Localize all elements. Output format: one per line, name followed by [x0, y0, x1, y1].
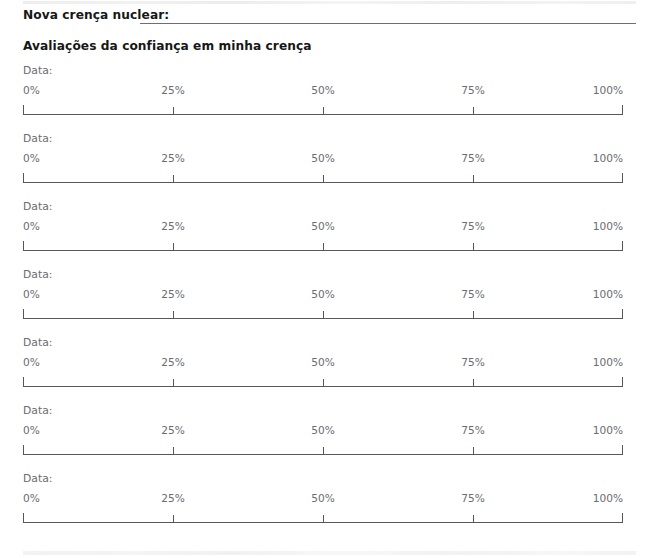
scale-mid-tick: [473, 515, 474, 523]
scale-mid-tick: [173, 447, 174, 455]
scale-tick-label: 75%: [461, 424, 485, 436]
rating-block: Data:0%25%50%75%100%: [23, 132, 636, 194]
scale-tick-label: 50%: [311, 356, 335, 368]
rating-block: Data:0%25%50%75%100%: [23, 472, 636, 534]
scale-tick-labels: 0%25%50%75%100%: [23, 356, 623, 372]
scale-tick-label: 75%: [461, 492, 485, 504]
scale-tick-label: 75%: [461, 288, 485, 300]
scale-mid-tick: [173, 311, 174, 319]
worksheet-page: Nova crença nuclear: Avaliações da confi…: [0, 0, 659, 558]
scale-tick-label: 50%: [311, 492, 335, 504]
scale-end-tick: [23, 173, 24, 183]
rating-block: Data:0%25%50%75%100%: [23, 336, 636, 398]
clipped-text-line-top: [23, 1, 636, 4]
scale-tick-label: 0%: [23, 84, 40, 96]
scale-end-tick: [23, 105, 24, 115]
scale-mid-tick: [473, 175, 474, 183]
scale-ruler: [23, 309, 623, 321]
scale-ruler: [23, 105, 623, 117]
confidence-scale[interactable]: 0%25%50%75%100%: [23, 356, 623, 396]
scale-tick-label: 75%: [461, 356, 485, 368]
scale-ruler: [23, 513, 623, 525]
scale-mid-tick: [173, 175, 174, 183]
rating-block: Data:0%25%50%75%100%: [23, 200, 636, 262]
rating-date-label[interactable]: Data:: [23, 268, 52, 281]
scale-mid-tick: [173, 515, 174, 523]
rating-date-label[interactable]: Data:: [23, 404, 52, 417]
scale-tick-label: 0%: [23, 492, 40, 504]
scale-tick-label: 75%: [461, 152, 485, 164]
scale-tick-label: 100%: [593, 220, 623, 232]
scale-mid-tick: [323, 107, 324, 115]
scale-tick-labels: 0%25%50%75%100%: [23, 152, 623, 168]
scale-tick-labels: 0%25%50%75%100%: [23, 492, 623, 508]
scale-end-tick: [23, 241, 24, 251]
scale-tick-labels: 0%25%50%75%100%: [23, 288, 623, 304]
new-core-belief-field-row: Nova crença nuclear:: [23, 8, 636, 28]
rating-block: Data:0%25%50%75%100%: [23, 64, 636, 126]
scale-mid-tick: [323, 447, 324, 455]
scale-tick-label: 25%: [161, 424, 185, 436]
scale-end-tick: [23, 377, 24, 387]
scale-tick-label: 0%: [23, 356, 40, 368]
scale-tick-label: 25%: [161, 152, 185, 164]
rating-date-label[interactable]: Data:: [23, 64, 52, 77]
scale-tick-label: 0%: [23, 424, 40, 436]
rating-date-label[interactable]: Data:: [23, 472, 52, 485]
scale-tick-label: 100%: [593, 492, 623, 504]
rating-block: Data:0%25%50%75%100%: [23, 404, 636, 466]
scale-mid-tick: [473, 107, 474, 115]
scale-tick-label: 25%: [161, 356, 185, 368]
scale-tick-labels: 0%25%50%75%100%: [23, 220, 623, 236]
scale-mid-tick: [473, 379, 474, 387]
rating-date-label[interactable]: Data:: [23, 336, 52, 349]
scale-end-tick: [622, 241, 623, 251]
scale-tick-label: 100%: [593, 84, 623, 96]
scale-mid-tick: [323, 311, 324, 319]
scale-end-tick: [622, 309, 623, 319]
confidence-scale[interactable]: 0%25%50%75%100%: [23, 424, 623, 464]
scale-tick-label: 50%: [311, 288, 335, 300]
confidence-scale[interactable]: 0%25%50%75%100%: [23, 492, 623, 532]
scale-mid-tick: [173, 107, 174, 115]
scale-end-tick: [622, 513, 623, 523]
scale-tick-label: 50%: [311, 152, 335, 164]
scale-tick-label: 100%: [593, 356, 623, 368]
clipped-text-line-bottom: [23, 551, 636, 555]
confidence-scale[interactable]: 0%25%50%75%100%: [23, 152, 623, 192]
rating-date-label[interactable]: Data:: [23, 132, 52, 145]
new-core-belief-input-rule[interactable]: [140, 23, 636, 24]
confidence-scale[interactable]: 0%25%50%75%100%: [23, 288, 623, 328]
scale-end-tick: [622, 377, 623, 387]
scale-tick-label: 100%: [593, 288, 623, 300]
scale-tick-labels: 0%25%50%75%100%: [23, 424, 623, 440]
scale-mid-tick: [473, 243, 474, 251]
scale-tick-label: 0%: [23, 220, 40, 232]
scale-mid-tick: [323, 379, 324, 387]
rating-block: Data:0%25%50%75%100%: [23, 268, 636, 330]
scale-mid-tick: [323, 243, 324, 251]
scale-end-tick: [23, 445, 24, 455]
scale-ruler: [23, 445, 623, 457]
confidence-scale[interactable]: 0%25%50%75%100%: [23, 220, 623, 260]
scale-mid-tick: [173, 243, 174, 251]
scale-end-tick: [622, 105, 623, 115]
rating-date-label[interactable]: Data:: [23, 200, 52, 213]
scale-ruler: [23, 241, 623, 253]
scale-tick-label: 50%: [311, 220, 335, 232]
scale-tick-label: 100%: [593, 424, 623, 436]
scale-mid-tick: [323, 515, 324, 523]
scale-end-tick: [622, 445, 623, 455]
scale-tick-label: 50%: [311, 424, 335, 436]
scale-end-tick: [23, 513, 24, 523]
scale-tick-labels: 0%25%50%75%100%: [23, 84, 623, 100]
scale-tick-label: 25%: [161, 220, 185, 232]
new-core-belief-label: Nova crença nuclear:: [23, 8, 169, 22]
scale-tick-label: 25%: [161, 288, 185, 300]
scale-tick-label: 0%: [23, 152, 40, 164]
scale-end-tick: [622, 173, 623, 183]
scale-mid-tick: [173, 379, 174, 387]
scale-mid-tick: [323, 175, 324, 183]
confidence-scale[interactable]: 0%25%50%75%100%: [23, 84, 623, 124]
scale-tick-label: 25%: [161, 84, 185, 96]
